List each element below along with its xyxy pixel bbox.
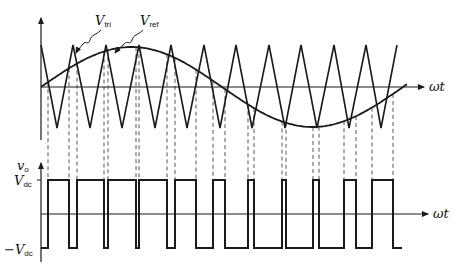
omega-t-bottom-label: ωt [433, 207, 449, 220]
spwm-diagram: Vtri Vref ωt ωt vo Vdc −Vdc [0, 0, 460, 274]
omega-t-top-label: ωt [429, 80, 445, 93]
v-o-axis-label: vo [17, 159, 29, 174]
v-dc-level-label: Vdc [14, 174, 32, 189]
switching-instant-guides [48, 47, 393, 180]
v-tri-leader-arrow-icon [76, 30, 101, 53]
v-ref-label: Vref [140, 14, 159, 29]
neg-v-dc-level-label: −Vdc [4, 243, 33, 258]
top-plot-axes [41, 18, 424, 140]
v-tri-label: Vtri [95, 14, 111, 29]
spwm-plot-canvas [0, 0, 460, 274]
